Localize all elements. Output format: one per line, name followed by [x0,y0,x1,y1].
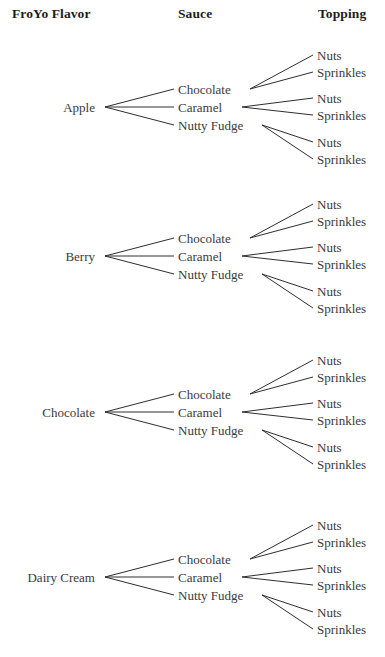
sauce-label-apple-0: Chocolate [178,83,231,96]
topping-label-berry-2-0: Nuts [317,285,342,298]
topping-label-dairy-cream-0-0: Nuts [317,519,342,532]
link-chocolate-0-to-nuts [250,360,313,394]
link-chocolate-2-to-nuts [262,430,313,447]
link-dairy-cream-1-to-nuts [242,568,313,577]
link-berry-0-to-nuts [250,204,313,238]
column-header-row: FroYo Flavor Sauce Topping [0,0,385,30]
link-chocolate-to-nutty-fudge [105,412,174,430]
flavor-label-berry: Berry [0,250,95,263]
link-chocolate-0-to-sprinkles [250,377,313,394]
link-chocolate-to-chocolate [105,394,174,412]
sauce-label-chocolate-2: Nutty Fudge [178,424,243,437]
topping-label-chocolate-0-1: Sprinkles [317,371,366,384]
sauce-label-berry-2: Nutty Fudge [178,268,243,281]
sauce-label-apple-1: Caramel [178,101,222,114]
sauce-label-dairy-cream-2: Nutty Fudge [178,589,243,602]
link-dairy-cream-to-chocolate [105,559,174,577]
column-header-topping: Topping [318,6,366,22]
topping-label-berry-0-1: Sprinkles [317,215,366,228]
topping-label-apple-2-0: Nuts [317,136,342,149]
sauce-label-dairy-cream-0: Chocolate [178,553,231,566]
topping-label-dairy-cream-1-1: Sprinkles [317,579,366,592]
link-dairy-cream-0-to-nuts [250,525,313,559]
topping-label-berry-0-0: Nuts [317,198,342,211]
link-dairy-cream-2-to-nuts [262,595,313,612]
topping-label-apple-0-1: Sprinkles [317,66,366,79]
link-berry-to-nutty-fudge [105,256,174,274]
link-apple-1-to-sprinkles [242,107,313,115]
link-dairy-cream-2-to-sprinkles [262,595,313,629]
topping-label-dairy-cream-0-1: Sprinkles [317,536,366,549]
sauce-label-chocolate-1: Caramel [178,406,222,419]
topping-label-chocolate-0-0: Nuts [317,354,342,367]
topping-label-chocolate-2-1: Sprinkles [317,458,366,471]
link-apple-0-to-sprinkles [250,72,313,89]
link-dairy-cream-0-to-sprinkles [250,542,313,559]
topping-label-apple-1-0: Nuts [317,92,342,105]
sauce-label-berry-0: Chocolate [178,232,231,245]
column-header-froyo-flavor: FroYo Flavor [12,6,91,22]
topping-label-berry-1-1: Sprinkles [317,258,366,271]
link-apple-1-to-nuts [242,98,313,107]
link-apple-2-to-nuts [262,125,313,142]
link-berry-1-to-sprinkles [242,256,313,264]
topping-label-berry-2-1: Sprinkles [317,302,366,315]
probability-tree-diagram: FroYo Flavor Sauce Topping AppleChocolat… [0,0,385,657]
topping-label-dairy-cream-2-1: Sprinkles [317,623,366,636]
link-berry-to-chocolate [105,238,174,256]
topping-label-chocolate-1-1: Sprinkles [317,414,366,427]
link-dairy-cream-1-to-sprinkles [242,577,313,585]
sauce-label-berry-1: Caramel [178,250,222,263]
topping-label-chocolate-2-0: Nuts [317,441,342,454]
link-berry-2-to-sprinkles [262,274,313,308]
sauce-label-chocolate-0: Chocolate [178,388,231,401]
topping-label-chocolate-1-0: Nuts [317,397,342,410]
sauce-label-apple-2: Nutty Fudge [178,119,243,132]
link-apple-0-to-nuts [250,55,313,89]
column-header-sauce: Sauce [178,6,212,22]
link-apple-to-nutty-fudge [105,107,174,125]
link-chocolate-1-to-nuts [242,403,313,412]
topping-label-apple-0-0: Nuts [317,49,342,62]
topping-label-apple-2-1: Sprinkles [317,153,366,166]
topping-label-dairy-cream-1-0: Nuts [317,562,342,575]
flavor-label-chocolate: Chocolate [0,406,95,419]
sauce-label-dairy-cream-1: Caramel [178,571,222,584]
link-dairy-cream-to-nutty-fudge [105,577,174,595]
link-apple-to-chocolate [105,89,174,107]
topping-label-berry-1-0: Nuts [317,241,342,254]
flavor-label-apple: Apple [0,101,95,114]
topping-label-apple-1-1: Sprinkles [317,109,366,122]
topping-label-dairy-cream-2-0: Nuts [317,606,342,619]
link-chocolate-1-to-sprinkles [242,412,313,420]
link-berry-1-to-nuts [242,247,313,256]
link-berry-2-to-nuts [262,274,313,291]
link-berry-0-to-sprinkles [250,221,313,238]
link-chocolate-2-to-sprinkles [262,430,313,464]
flavor-label-dairy-cream: Dairy Cream [0,571,95,584]
link-apple-2-to-sprinkles [262,125,313,159]
